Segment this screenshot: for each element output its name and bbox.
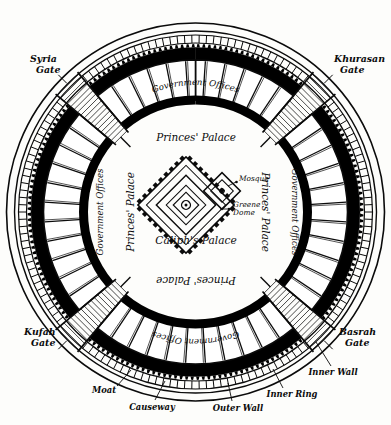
green-dome-label-line2: Dome <box>232 208 255 217</box>
zone-label-government-offices-right: Government Offices <box>290 169 300 256</box>
zone-label-princes-palace-bottom: Princes' Palace <box>156 275 237 287</box>
zone-label-government-offices-left: Government Offices <box>95 168 105 255</box>
mosque-label: Mosque <box>238 174 269 183</box>
moat-leader <box>117 370 131 386</box>
gate-label-basrah-line2: Gate <box>345 337 369 348</box>
gate-label-kufah-line2: Gate <box>31 337 55 348</box>
caliphs-palace-label: Caliph's Palace <box>155 234 236 246</box>
gate-label-syria-line1: Syria <box>30 53 57 64</box>
zone-label-princes-palace-left: Princes' Palace <box>124 172 136 253</box>
caption-causeway: Causeway <box>129 402 176 412</box>
round-city-plan: Government Offices Government Offices Go… <box>0 0 391 425</box>
gate-label-kufah-line1: Kufah <box>23 326 56 337</box>
caption-inner-wall: Inner Wall <box>307 367 357 377</box>
city-plan-svg: Government Offices Government Offices Go… <box>0 0 391 425</box>
caption-inner-ring: Inner Ring <box>266 389 318 399</box>
gate-label-syria-line2: Gate <box>36 64 60 75</box>
gate-label-khurasan-line2: Gate <box>340 64 364 75</box>
gate-label-khurasan-line1: Khurasan <box>333 53 385 64</box>
zone-label-princes-palace-right: Princes' Palace <box>260 171 272 252</box>
gate-label-basrah-line1: Basrah <box>338 326 376 337</box>
caption-outer-wall: Outer Wall <box>213 403 263 413</box>
caption-moat: Moat <box>91 385 116 395</box>
zone-label-princes-palace-top: Princes' Palace <box>155 131 236 143</box>
